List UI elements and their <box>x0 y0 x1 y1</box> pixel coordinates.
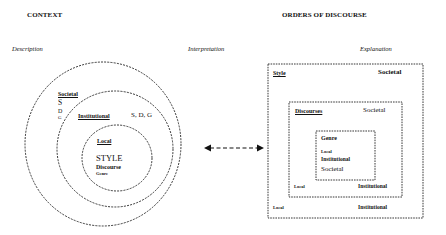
local-label: Local <box>97 138 111 144</box>
style-box-label: Style <box>273 70 286 76</box>
local-discourse: Discourse <box>96 164 121 170</box>
explanation-label: Explanation <box>360 46 392 53</box>
discourses-box-local: Local <box>294 185 305 190</box>
diagram-shapes <box>0 0 446 235</box>
style-box <box>268 64 423 218</box>
institutional-letters: S, D, G <box>131 112 152 119</box>
societal-circle <box>25 62 181 226</box>
institutional-label: Institutional <box>78 113 110 119</box>
discourses-box-societal: Societal <box>363 107 386 114</box>
discourses-box-label: Discourses <box>295 108 322 114</box>
societal-letter-d: D <box>58 108 62 114</box>
style-box-societal: Societal <box>378 69 401 76</box>
style-box-institutional: Institutional <box>358 205 387 211</box>
genre-box-label: Genre <box>321 135 337 141</box>
context-heading: CONTEXT <box>27 12 62 19</box>
orders-of-discourse-heading: ORDERS OF DISCOURSE <box>282 12 367 19</box>
local-genre: Genre <box>96 172 108 177</box>
description-label: Description <box>12 46 43 53</box>
societal-label: Societal <box>58 91 78 97</box>
local-style: STYLE <box>96 154 122 163</box>
interpretation-label: Interpretation <box>188 46 224 53</box>
genre-box-institutional: Institutional <box>321 157 350 163</box>
genre-box-societal: Societal <box>321 166 344 173</box>
style-box-local: Local <box>273 206 284 211</box>
societal-letter-s: S <box>58 99 62 107</box>
bidirectional-arrow-icon <box>204 145 264 152</box>
societal-letter-g: G <box>58 115 62 120</box>
institutional-circle <box>57 91 173 207</box>
discourses-box-institutional: Institutional <box>358 184 387 190</box>
genre-box-local: Local <box>321 150 332 155</box>
